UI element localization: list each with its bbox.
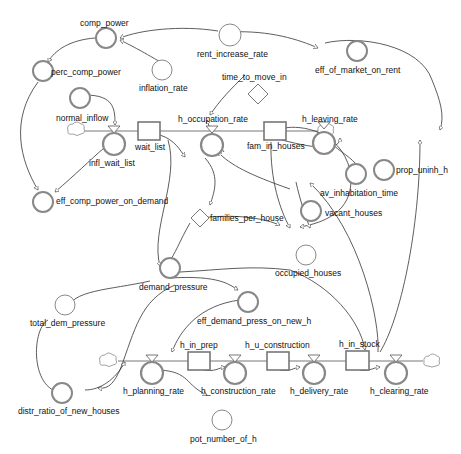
label-rent-increase-rate: rent_increase_rate [197,49,268,59]
converter-eff-comp-power-on-demand[interactable] [33,192,53,212]
flow-h-planning-rate[interactable] [141,362,163,384]
converter-eff-demand-press-on-new-h[interactable] [238,292,258,312]
label-h-delivery-rate: h_delivery_rate [290,386,348,396]
stock-fam-in-houses[interactable] [264,122,286,140]
converter-demand-pressure[interactable] [160,258,180,278]
label-distr-ratio-of-new-houses: distr_ratio_of_new_houses [18,406,120,416]
label-h-in-stock: h_in_stock [339,339,380,349]
converter-eff-of-market-on-rent[interactable] [347,41,367,61]
label-demand-pressure: demand_pressure [139,282,208,292]
converter-normal-inflow[interactable] [70,88,90,108]
converter-comp-power[interactable] [96,28,116,48]
stock-h-in-prep[interactable] [188,352,210,370]
flow-h-clearing-rate[interactable] [385,362,407,384]
label-time-to-move-in: time_to_move_in [222,72,287,82]
label-fam-in-houses: fam_in_houses [247,141,305,151]
converter-total-dem-pressure[interactable] [55,295,75,315]
label-perc-comp-power: perc_comp_power [51,67,121,77]
cloud-icon [68,122,85,136]
label-normal-inflow: normal_inflow [56,113,108,123]
label-h-leaving-rate: h_leaving_rate [302,114,358,124]
flow-infl-wait-list[interactable] [103,133,125,155]
converter-pot-number-of-h[interactable] [212,410,232,430]
constant-families-per-house[interactable] [191,209,209,227]
converter-av-inhabitation-time[interactable] [346,164,366,184]
cloud-icon [100,353,117,367]
converter-inflation-rate[interactable] [152,60,172,80]
flow-h-construction-rate[interactable] [224,362,246,384]
flow-h-leaving-rate[interactable] [313,132,335,154]
label-h-planning-rate: h_planning_rate [123,386,184,396]
label-h-u-construction: h_u_construction [245,340,310,350]
label-prop-uninh-h: prop_uninh_h [396,165,448,175]
label-h-in-prep: h_in_prep [180,340,218,350]
label-vacant-houses: vacant_houses [325,208,382,218]
label-infl-wait-list: infl_wait_list [89,158,135,168]
label-h-construction-rate: h_construction_rate [201,386,276,396]
label-occupied-houses: occupied_houses [275,268,341,278]
label-pot-number-of-h: pot_number_of_h [190,434,257,444]
label-eff-comp-power-on-demand: eff_comp_power_on_demand [56,196,168,206]
label-eff-demand-press-on-new-h: eff_demand_press_on_new_h [197,316,311,326]
stock-h-in-stock[interactable] [346,351,369,370]
converter-occupied-houses[interactable] [296,245,316,265]
stock-wait-list[interactable] [138,122,160,140]
label-families-per-house: families_per_house [210,213,284,223]
converter-vacant-houses[interactable] [301,201,321,221]
label-eff-of-market-on-rent: eff_of_market_on_rent [315,65,400,75]
converter-perc-comp-power[interactable] [33,61,53,81]
flow-h-occupation-rate[interactable] [201,134,223,156]
stock-h-u-construction[interactable] [267,352,289,370]
cloud-icon [424,354,440,367]
label-comp-power: comp_power [80,18,129,28]
converter-rent-increase-rate[interactable] [219,24,241,46]
label-total-dem-pressure: total_dem_pressure [30,318,105,328]
label-inflation-rate: inflation_rate [139,83,188,93]
label-av-inhabitation-time: av_inhabitation_time [320,188,398,198]
converter-prop-uninh-h[interactable] [374,160,394,180]
flow-h-delivery-rate[interactable] [303,362,325,384]
converter-distr-ratio-of-new-houses[interactable] [52,383,72,403]
label-wait-list: wait_list [135,142,165,152]
valve-icons [108,122,402,362]
label-h-occupation-rate: h_occupation_rate [178,114,248,124]
constant-time-to-move-in[interactable] [248,84,268,104]
label-h-clearing-rate: h_clearing_rate [370,386,429,396]
